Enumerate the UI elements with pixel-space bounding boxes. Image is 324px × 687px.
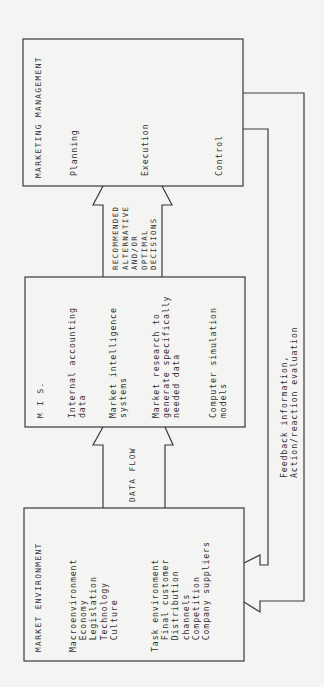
- mis-title: M I S.: [36, 381, 46, 418]
- data-flow-label: DATA FLOW: [128, 447, 138, 502]
- mm-item-control: Control: [214, 135, 224, 176]
- decisions-label: RECOMMENDED ALTERNATIVE AND/OR OPTIMAL D…: [111, 206, 159, 270]
- data-flow-arrow-right: [165, 427, 173, 508]
- marketing-management-box: [23, 39, 243, 186]
- data-flow-arrow-left: [93, 427, 103, 508]
- mis-item-market-research: Market research to generate specifically…: [151, 296, 182, 418]
- marketing-management-title: MARKETING MANAGEMENT: [34, 56, 44, 178]
- decisions-arrow-right: [162, 186, 172, 277]
- mis-item-market-intelligence: Market intelligence systems: [108, 307, 128, 418]
- mm-item-execution: Execution: [140, 124, 150, 176]
- decisions-arrow-left: [93, 186, 103, 277]
- market-environment-title: MARKET ENVIRONMENT: [34, 542, 44, 652]
- market-environment-macro-list: Macroenvironment Economy Legislation Tec…: [68, 559, 119, 652]
- mis-item-computer-simulation: Computer simulation models: [208, 307, 228, 418]
- feedback-arrow-inner: [243, 129, 268, 565]
- mm-item-planning: Planning: [69, 129, 79, 176]
- mis-item-internal-accounting: Internal accounting data: [67, 307, 87, 418]
- market-environment-task-list: Task environment Final customer Distribu…: [150, 541, 211, 652]
- feedback-label: Feedback information, Action/reaction ev…: [279, 326, 299, 478]
